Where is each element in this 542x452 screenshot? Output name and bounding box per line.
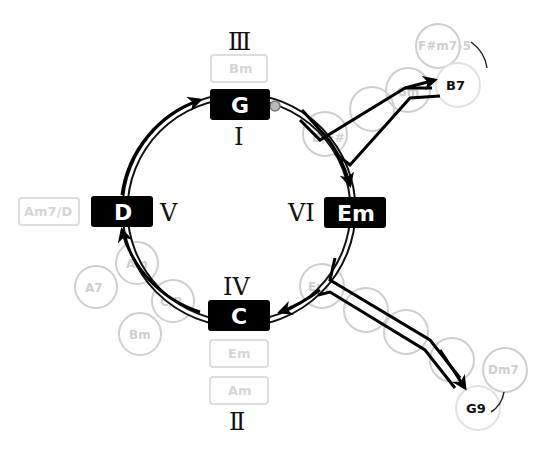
svg-text:Em: Em: [337, 201, 375, 226]
substitute-box-am[interactable]: Am: [210, 377, 268, 404]
ghost-chord-a7: A7: [85, 281, 103, 295]
svg-text:Am: Am: [228, 383, 252, 398]
substitute-box-em[interactable]: Em: [210, 340, 268, 367]
svg-text:C: C: [231, 304, 247, 329]
target-chord-b7: B7: [446, 78, 465, 93]
substitute-box-am7d[interactable]: Am7/D: [19, 198, 79, 225]
chord-box-em[interactable]: Em: [324, 197, 386, 228]
svg-text:D: D: [114, 200, 132, 225]
chord-box-c[interactable]: C: [208, 300, 270, 331]
branch-to-g9: [318, 258, 460, 388]
target-chord-g9: G9: [466, 401, 486, 416]
ghost-chord-dm7: Dm7: [488, 363, 519, 377]
substitute-box-bm[interactable]: Bm: [211, 55, 267, 82]
ghost-chord-bm: Bm: [129, 328, 151, 342]
degree-label-iv: IV: [223, 273, 250, 301]
svg-text:G: G: [231, 93, 249, 118]
svg-text:Bm: Bm: [229, 61, 252, 76]
degree-label-iii: Ⅲ: [228, 28, 251, 56]
degree-label-i: I: [234, 123, 243, 151]
degree-label-vi: VI: [287, 199, 315, 227]
chord-cycle-diagram: D/F# Gm F#m7♭5 Em Dm7 Am C/B A7 Bm B7 G9: [0, 0, 542, 452]
chord-box-g[interactable]: G: [210, 89, 270, 120]
ghost-chord-fsm7b5: F#m7♭5: [418, 39, 471, 53]
start-dot: [270, 101, 280, 111]
alt-connector-upper: [471, 42, 487, 68]
degree-label-ii: Ⅱ: [229, 408, 245, 436]
arrow-d-to-g: [122, 100, 200, 195]
svg-text:Em: Em: [228, 346, 250, 361]
chord-box-d[interactable]: D: [91, 196, 153, 227]
svg-text:Am7/D: Am7/D: [24, 204, 72, 219]
degree-label-v: V: [159, 199, 178, 227]
